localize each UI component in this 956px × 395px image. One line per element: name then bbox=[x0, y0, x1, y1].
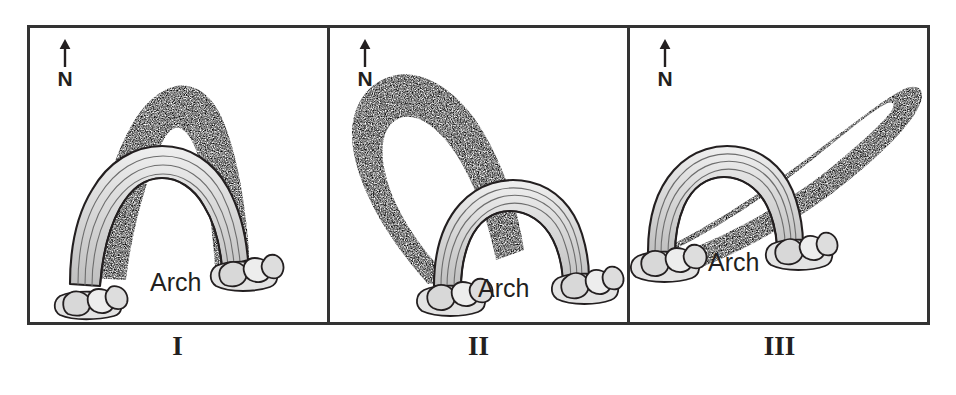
arch-label: Arch bbox=[708, 250, 759, 275]
panel-1: N Arch bbox=[30, 28, 327, 322]
panel-caption-row: I II III bbox=[27, 332, 930, 372]
north-arrow-icon: N bbox=[348, 38, 382, 100]
north-arrow-icon: N bbox=[648, 38, 682, 100]
panel-3: N Arch bbox=[627, 28, 927, 322]
panel-caption-2: II bbox=[328, 332, 629, 372]
panel-1-base-left bbox=[55, 286, 128, 319]
arch-label: Arch bbox=[150, 270, 201, 295]
panel-caption-3: III bbox=[629, 332, 930, 372]
arch-label: Arch bbox=[478, 276, 529, 301]
panel-caption-1: I bbox=[27, 332, 328, 372]
panel-frame: N Arch bbox=[27, 25, 930, 325]
panel-2: N Arch bbox=[327, 28, 627, 322]
panel-3-base-left bbox=[631, 245, 707, 282]
north-letter: N bbox=[48, 68, 82, 89]
north-letter: N bbox=[648, 68, 682, 89]
north-letter: N bbox=[348, 68, 382, 89]
north-arrow-icon: N bbox=[48, 38, 82, 100]
figure-root: N Arch bbox=[0, 0, 956, 395]
